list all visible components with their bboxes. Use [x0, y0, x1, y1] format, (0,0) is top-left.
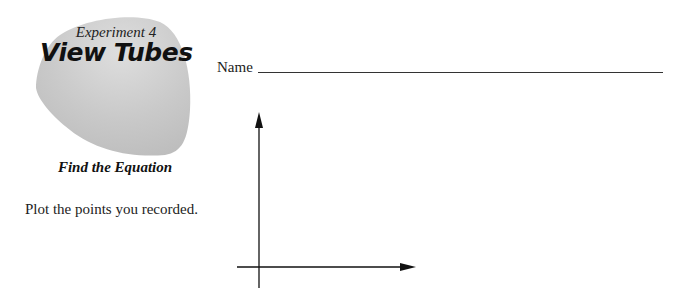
- x-axis-arrow-icon: [400, 263, 416, 271]
- section-subtitle: Find the Equation: [40, 159, 190, 176]
- name-label: Name: [217, 59, 253, 76]
- x-axis: [237, 263, 416, 271]
- page-title: View Tubes: [40, 38, 190, 67]
- y-axis-arrow-icon: [255, 112, 263, 128]
- instruction-text: Plot the points you recorded.: [25, 201, 198, 218]
- y-axis: [255, 112, 263, 288]
- blank-graph-axes: [230, 100, 430, 300]
- name-input-line[interactable]: [258, 72, 663, 73]
